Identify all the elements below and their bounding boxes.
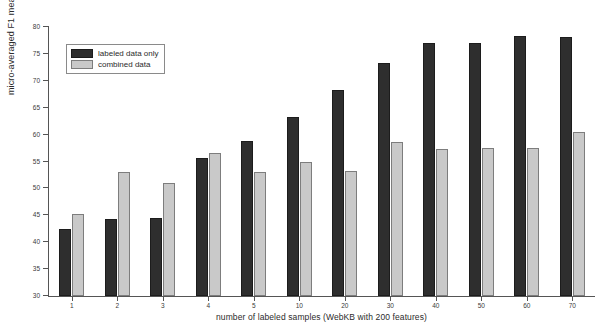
legend-item-labeled-data-only: labeled data only [71,48,159,59]
bar-labeled-data-only-30 [378,63,390,296]
x-axis-title: number of labeled samples (WebKB with 20… [48,312,595,322]
bar-labeled-data-only-3 [150,218,162,296]
y-axis-tick-label: 75 [33,49,40,58]
bar-combined-data-1 [72,214,84,296]
bar-labeled-data-only-40 [423,43,435,296]
x-axis-tick-label: 40 [432,301,439,310]
y-axis-tick-label: 60 [33,130,40,139]
y-axis-tick-label: 35 [33,264,40,273]
y-axis-tick-label: 65 [33,103,40,112]
bar-combined-data-40 [436,149,448,296]
x-axis-tick-label: 4 [206,301,210,310]
bar-combined-data-20 [345,171,357,296]
bar-combined-data-30 [391,142,403,296]
bar-combined-data-70 [573,132,585,296]
bar-labeled-data-only-20 [332,90,344,296]
x-axis-tick-label: 3 [161,301,165,310]
bar-chart: micro-averaged F1 measure 30354045505560… [0,0,603,332]
y-axis-tick-label: 50 [33,183,40,192]
x-axis-tick-label: 2 [115,301,119,310]
y-axis-tick-label: 30 [33,291,40,300]
dark-swatch-icon [71,49,93,58]
y-axis-tick-label: 45 [33,210,40,219]
bar-labeled-data-only-50 [469,43,481,296]
x-axis-tick-label: 10 [296,301,303,310]
legend-label: combined data [98,60,150,69]
bar-labeled-data-only-5 [241,141,253,296]
bar-labeled-data-only-4 [196,158,208,296]
bar-combined-data-2 [118,172,130,296]
x-axis-tick-label: 70 [569,301,576,310]
bar-combined-data-50 [482,148,494,296]
y-axis-tick-label: 55 [33,157,40,166]
x-axis-tick-label: 50 [478,301,485,310]
bar-labeled-data-only-70 [560,37,572,296]
y-axis-tick-label: 80 [33,22,40,31]
x-axis-tick-label: 30 [387,301,394,310]
bar-labeled-data-only-60 [514,36,526,296]
bar-combined-data-60 [527,148,539,296]
bar-combined-data-4 [209,153,221,296]
chart-legend: labeled data only combined data [66,44,165,74]
x-axis-tick-label: 60 [523,301,530,310]
bar-combined-data-5 [254,172,266,296]
bar-labeled-data-only-2 [105,219,117,296]
light-swatch-icon [71,60,93,69]
bar-combined-data-3 [163,183,175,296]
x-axis-tick-label: 1 [70,301,74,310]
bar-combined-data-10 [300,162,312,297]
bar-labeled-data-only-1 [59,229,71,296]
y-axis-tick-label: 40 [33,237,40,246]
x-axis-tick-label: 20 [341,301,348,310]
legend-label: labeled data only [98,49,159,58]
legend-item-combined-data: combined data [71,59,159,70]
y-axis-title: micro-averaged F1 measure [6,0,16,95]
x-axis-tick-label: 5 [252,301,256,310]
bar-labeled-data-only-10 [287,117,299,296]
y-axis-tick-label: 70 [33,76,40,85]
